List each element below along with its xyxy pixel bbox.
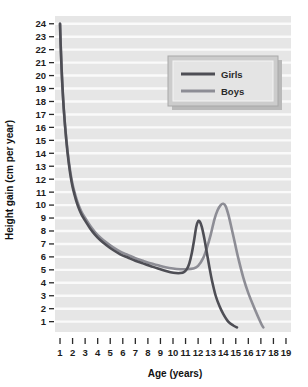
x-tick-label-15: 15 [230,347,241,358]
y-tick-label-11: 11 [36,187,47,198]
y-tick-label-5: 5 [41,264,47,275]
chart-legend[interactable]: GirlsBoys [168,56,282,110]
y-tick-label-21: 21 [35,57,46,68]
x-tick-label-14: 14 [218,347,229,358]
y-tick-label-24: 24 [35,18,46,29]
y-axis-ticks [49,24,54,322]
y-axis-title: Height gain (cm per year) [4,120,15,240]
y-tick-label-3: 3 [41,290,46,301]
y-tick-label-2: 2 [41,303,46,314]
x-axis-title: Age (years) [148,368,202,379]
y-tick-label-9: 9 [41,212,46,223]
y-tick-label-4: 4 [41,277,47,288]
x-axis-tick-labels: 12345678910111213141516171819 [57,347,291,358]
x-tick-label-13: 13 [205,347,216,358]
x-tick-label-3: 3 [82,347,87,358]
legend-label-boys: Boys [221,86,244,97]
y-tick-label-6: 6 [41,251,46,262]
x-tick-label-4: 4 [95,347,101,358]
x-tick-label-11: 11 [181,347,192,358]
y-tick-label-8: 8 [41,225,46,236]
y-tick-label-15: 15 [35,135,46,146]
legend-label-girls: Girls [221,69,243,80]
chart-canvas: 123456789101112131415161718192021222324 … [0,0,308,387]
x-tick-label-19: 19 [281,347,292,358]
x-tick-label-10: 10 [168,347,179,358]
y-tick-label-13: 13 [35,161,46,172]
x-tick-label-8: 8 [145,347,150,358]
x-tick-label-1: 1 [57,347,63,358]
x-tick-label-18: 18 [268,347,279,358]
y-tick-label-1: 1 [41,316,47,327]
x-tick-label-16: 16 [243,347,254,358]
y-tick-label-17: 17 [35,109,46,120]
y-tick-label-19: 19 [35,83,46,94]
y-tick-label-16: 16 [35,122,46,133]
x-tick-label-17: 17 [256,347,267,358]
y-tick-label-20: 20 [35,70,46,81]
x-tick-label-12: 12 [193,347,204,358]
y-tick-label-12: 12 [35,174,46,185]
x-axis-ticks [60,338,286,344]
y-axis-tick-labels: 123456789101112131415161718192021222324 [35,18,46,327]
x-tick-label-9: 9 [158,347,163,358]
x-tick-label-7: 7 [133,347,138,358]
x-tick-label-2: 2 [70,347,75,358]
y-tick-label-7: 7 [41,238,46,249]
x-tick-label-6: 6 [120,347,125,358]
x-tick-label-5: 5 [108,347,114,358]
y-tick-label-10: 10 [35,199,46,210]
y-tick-label-14: 14 [35,148,46,159]
y-tick-label-22: 22 [35,44,46,55]
y-tick-label-23: 23 [35,31,46,42]
y-tick-label-18: 18 [35,96,46,107]
growth-velocity-chart: 123456789101112131415161718192021222324 … [0,0,308,387]
